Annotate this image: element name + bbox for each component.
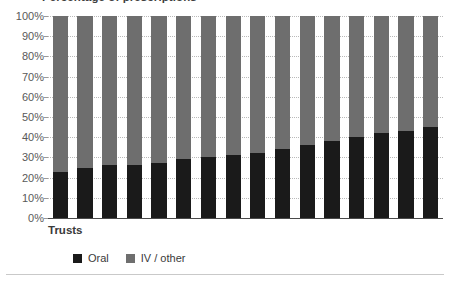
bar-segment-iv-other <box>349 16 364 137</box>
y-axis-tick-label: 70% <box>0 71 44 83</box>
bar-segment-iv-other <box>53 16 68 172</box>
bar-stack <box>250 16 265 218</box>
legend-label: Oral <box>88 252 109 264</box>
legend-item[interactable]: Oral <box>73 252 109 264</box>
bar-segment-iv-other <box>324 16 339 141</box>
bar-stack <box>53 16 68 218</box>
bar-segment-oral <box>176 159 191 218</box>
y-axis-tick-label: 0% <box>0 212 44 224</box>
legend-swatch-icon <box>126 254 135 263</box>
legend-label: IV / other <box>141 252 186 264</box>
x-axis-label: Trusts <box>48 224 83 236</box>
bar-segment-iv-other <box>398 16 413 131</box>
bar-segment-oral <box>77 168 92 219</box>
bar-stack <box>226 16 241 218</box>
chart-title: Percentage of prescriptions <box>42 0 197 4</box>
y-axis-tick-label: 50% <box>0 111 44 123</box>
bar-segment-oral <box>201 157 216 218</box>
bar-segment-iv-other <box>250 16 265 153</box>
bar-segment-oral <box>423 127 438 218</box>
bar-stack <box>151 16 166 218</box>
bar-segment-oral <box>250 153 265 218</box>
y-axis-tick-label: 10% <box>0 192 44 204</box>
bar-segment-iv-other <box>201 16 216 157</box>
bar-stack <box>374 16 389 218</box>
bar-stack <box>349 16 364 218</box>
bar-stack <box>398 16 413 218</box>
bar-stack <box>300 16 315 218</box>
bar-segment-oral <box>349 137 364 218</box>
bar-stack <box>423 16 438 218</box>
legend-swatch-icon <box>73 254 82 263</box>
bar-segment-oral <box>127 165 142 218</box>
bar-segment-iv-other <box>423 16 438 127</box>
bar-segment-iv-other <box>151 16 166 163</box>
bar-segment-oral <box>102 165 117 218</box>
bar-segment-oral <box>374 133 389 218</box>
y-axis-tick-label: 30% <box>0 151 44 163</box>
bar-segment-oral <box>398 131 413 218</box>
bar-segment-oral <box>324 141 339 218</box>
chart-legend: OralIV / other <box>73 252 185 264</box>
bar-segment-oral <box>151 163 166 218</box>
bar-segment-oral <box>53 172 68 218</box>
bar-segment-iv-other <box>275 16 290 149</box>
bar-segment-iv-other <box>127 16 142 165</box>
bar-segment-iv-other <box>102 16 117 165</box>
y-axis-tick-label: 60% <box>0 91 44 103</box>
bar-stack <box>127 16 142 218</box>
bar-segment-oral <box>275 149 290 218</box>
bar-segment-iv-other <box>226 16 241 155</box>
bar-stack <box>77 16 92 218</box>
bar-segment-oral <box>300 145 315 218</box>
y-axis-tick-label: 90% <box>0 30 44 42</box>
y-axis-tick-label: 80% <box>0 50 44 62</box>
bar-segment-iv-other <box>176 16 191 159</box>
bar-stack <box>324 16 339 218</box>
plot-area <box>48 16 443 218</box>
bottom-divider <box>6 274 444 275</box>
gridline <box>48 218 443 219</box>
bar-stack <box>176 16 191 218</box>
bar-segment-oral <box>226 155 241 218</box>
bar-segment-iv-other <box>374 16 389 133</box>
chart-page: Percentage of prescriptions 0%10%20%30%4… <box>0 0 450 286</box>
bar-stack <box>201 16 216 218</box>
bar-segment-iv-other <box>77 16 92 168</box>
y-axis-tick-label: 40% <box>0 131 44 143</box>
y-axis-tick-label: 20% <box>0 172 44 184</box>
y-axis-tick-label: 100% <box>0 10 44 22</box>
legend-item[interactable]: IV / other <box>126 252 186 264</box>
bar-stack <box>275 16 290 218</box>
bar-stack <box>102 16 117 218</box>
bar-segment-iv-other <box>300 16 315 145</box>
